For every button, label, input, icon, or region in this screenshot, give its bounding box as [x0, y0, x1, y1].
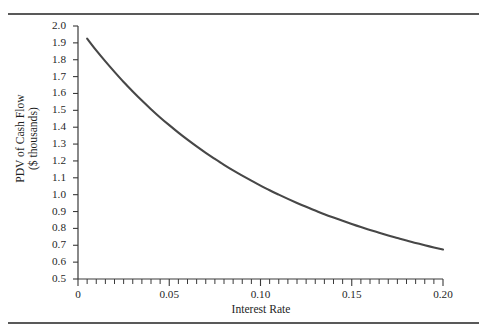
data-series-group: [87, 39, 443, 250]
axis-lines: [78, 26, 443, 279]
y-tick-label: 2.0: [36, 20, 66, 31]
y-axis-title: PDV of Cash Flow ($ thousands): [15, 69, 40, 209]
pdv-curve: [87, 39, 443, 250]
y-tick-label: 0.7: [36, 239, 66, 250]
y-tick-label: 1.8: [36, 54, 66, 65]
x-axis-title: Interest Rate: [78, 303, 444, 316]
y-axis-ticks: [73, 26, 78, 279]
x-tick-label: 0.15: [332, 289, 372, 300]
y-tick-label: 1.9: [36, 37, 66, 48]
y-tick-label: 0.5: [36, 273, 66, 284]
x-tick-label: 0.05: [149, 289, 189, 300]
y-axis-title-line1: PDV of Cash Flow: [14, 94, 27, 182]
chart-plot-area: [0, 0, 487, 336]
x-tick-label: 0.20: [423, 289, 463, 300]
y-axis-title-line2: ($ thousands): [28, 69, 41, 209]
y-tick-label: 0.6: [36, 256, 66, 267]
x-tick-label: 0: [58, 289, 98, 300]
x-tick-label: 0.10: [241, 289, 281, 300]
y-tick-label: 0.8: [36, 222, 66, 233]
x-axis-minor-ticks: [78, 279, 443, 286]
figure-container: 0.50.60.70.80.91.01.11.21.31.41.51.61.71…: [0, 0, 487, 336]
